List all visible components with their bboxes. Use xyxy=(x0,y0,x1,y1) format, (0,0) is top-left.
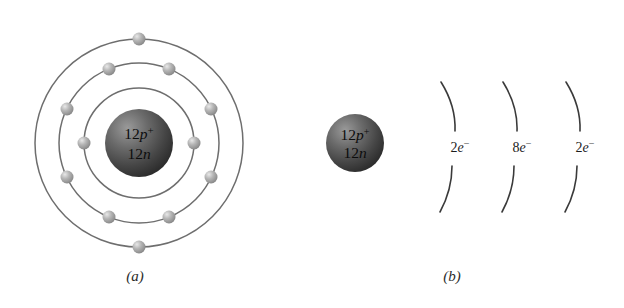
electron xyxy=(133,241,146,254)
electron xyxy=(205,171,218,184)
electron xyxy=(61,103,74,116)
nucleus-panel-b: 12p+ 12n xyxy=(326,114,384,172)
shell-arc-lower xyxy=(565,166,577,212)
shell-arc-2-group: 8e− xyxy=(502,82,532,212)
nucleus-sphere xyxy=(326,114,384,172)
electron xyxy=(163,63,176,76)
shell-arc-3-label: 2e− xyxy=(576,138,595,155)
shell-arc-3-group: 2e− xyxy=(565,82,595,212)
shell-arc-2-label: 8e− xyxy=(513,138,532,155)
shell-arc-lower xyxy=(440,166,452,212)
electron xyxy=(78,137,91,150)
shell-arc-1-label: 2e− xyxy=(451,138,470,155)
nucleus-sphere xyxy=(105,109,173,177)
shell-arc-1-group: 2e− xyxy=(440,82,470,212)
electron xyxy=(205,103,218,116)
nucleus-neutron-label: 12n xyxy=(127,145,151,162)
electron xyxy=(163,211,176,224)
electron xyxy=(103,63,116,76)
electron xyxy=(61,171,74,184)
electron xyxy=(133,33,146,46)
electron xyxy=(103,211,116,224)
shell-arc-lower xyxy=(502,166,514,212)
panel-b-caption: (b) xyxy=(443,268,461,285)
figure-canvas: 12p+ 12n (a) xyxy=(0,0,624,308)
shell-arc-upper xyxy=(566,82,580,131)
shell-arc-upper xyxy=(441,82,455,131)
nucleus-neutron-label: 12n xyxy=(343,144,367,161)
panel-a-caption: (a) xyxy=(126,268,144,285)
atomic-structure-figure: 12p+ 12n (a) xyxy=(0,0,624,308)
electron xyxy=(188,137,201,150)
shell-arc-upper xyxy=(503,82,517,131)
panel-a: 12p+ 12n (a) xyxy=(35,33,243,286)
panel-b: 12p+ 12n 2e− 8e− 2e− (b) xyxy=(326,82,595,285)
nucleus-panel-a: 12p+ 12n xyxy=(105,109,173,177)
